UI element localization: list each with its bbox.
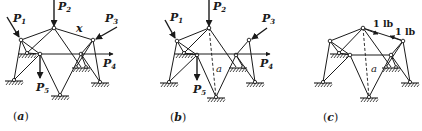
label-p1: P1 xyxy=(12,12,26,26)
label-p2: P2 xyxy=(212,0,226,14)
panel-b: P1 P2 P3 P4 P5 a (b) xyxy=(160,0,275,124)
member-a-removed xyxy=(209,28,216,97)
joint-nodes xyxy=(12,26,101,96)
label-member-x: x xyxy=(75,22,83,35)
label-p4: P4 xyxy=(102,57,116,71)
ground-supports xyxy=(314,54,419,102)
truss-figure: P1 P2 P3 P4 P5 x (a) xyxy=(0,0,422,131)
label-p5: P5 xyxy=(192,83,206,97)
label-unit-load-2: 1 lb xyxy=(395,26,416,37)
joint-nodes xyxy=(321,26,411,98)
caption-a: (a) xyxy=(13,110,29,123)
label-member-a: a xyxy=(216,63,222,74)
truss-members xyxy=(169,28,255,97)
caption-b: (b) xyxy=(170,111,186,124)
label-p3: P3 xyxy=(104,12,118,26)
truss-members xyxy=(14,28,100,95)
panel-c: 1 lb 1 lb a (c) xyxy=(314,18,419,124)
label-p4: P4 xyxy=(259,57,273,71)
label-p1: P1 xyxy=(169,11,183,25)
caption-c: (c) xyxy=(323,111,338,124)
force-p3-arrow xyxy=(96,27,117,39)
label-p2: P2 xyxy=(57,0,71,14)
label-member-a: a xyxy=(371,63,377,74)
ground-supports xyxy=(5,54,109,100)
panel-a: P1 P2 P3 P4 P5 x (a) xyxy=(5,0,118,123)
force-p3-arrow xyxy=(252,28,267,39)
label-p5: P5 xyxy=(35,81,49,95)
label-p3: P3 xyxy=(261,12,275,26)
ground-supports xyxy=(160,54,264,102)
label-unit-load-1: 1 lb xyxy=(373,18,394,29)
